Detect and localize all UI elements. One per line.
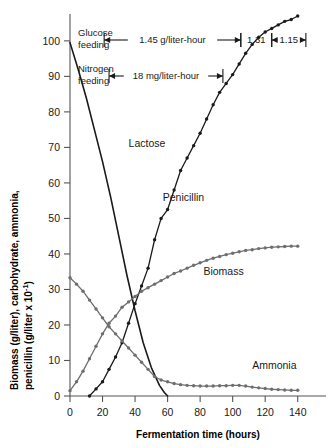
annotation-nitrogen-feeding: Nitrogenfeeding18 mg/liter-hour (78, 63, 223, 86)
data-point (179, 269, 182, 272)
nitrogen-feeding-label-line2: feeding (78, 75, 109, 86)
data-point (205, 384, 208, 387)
data-point (88, 394, 91, 397)
data-point (88, 357, 91, 360)
x-tick-label: 40 (129, 406, 141, 418)
y-axis-ticks: 0102030405060708090100 (42, 35, 70, 402)
x-tick-label: 80 (194, 406, 206, 418)
data-point (250, 248, 253, 251)
data-point (185, 384, 188, 387)
data-point (270, 388, 273, 391)
series-label-ammonia: Ammonia (252, 359, 297, 371)
annotations-layer: Glucosefeeding1.45 g/liter-hour1.311.15N… (78, 27, 306, 86)
y-tick-label: 30 (48, 283, 60, 295)
data-point (244, 249, 247, 252)
x-tick-label: 0 (67, 406, 73, 418)
data-point (218, 91, 221, 94)
data-point (127, 300, 130, 303)
data-point (211, 103, 214, 106)
data-point (81, 290, 84, 293)
data-point (237, 250, 240, 253)
data-point (192, 144, 195, 147)
data-point (283, 388, 286, 391)
data-point (290, 244, 293, 247)
y-tick-label: 70 (48, 141, 60, 153)
data-point (94, 387, 97, 390)
data-point (264, 30, 267, 33)
data-point (211, 257, 214, 260)
data-point (101, 332, 104, 335)
annotation-glucose-feeding: Glucosefeeding1.45 g/liter-hour1.311.15 (78, 27, 306, 50)
data-point (114, 332, 117, 335)
data-point (140, 361, 143, 364)
penicillin-fermentation-chart: Biomass (g/liter), carbohydrate, ammonia… (0, 0, 334, 448)
series-line (70, 43, 168, 396)
y-tick-label: 40 (48, 248, 60, 260)
data-point (205, 259, 208, 262)
data-point (179, 169, 182, 172)
x-tick-label: 60 (162, 406, 174, 418)
data-point (159, 217, 162, 220)
data-point (94, 345, 97, 348)
glucose-feeding-span-2-label: 1.31 (247, 34, 266, 45)
data-point (146, 266, 149, 269)
data-point (146, 286, 149, 289)
data-point (257, 386, 260, 389)
data-point (81, 369, 84, 372)
data-point (185, 156, 188, 159)
data-point (75, 380, 78, 383)
y-tick-label: 100 (42, 35, 60, 47)
x-tick-label: 120 (256, 406, 274, 418)
glucose-feeding-span-1-right-arrow (235, 37, 241, 43)
data-point (237, 384, 240, 387)
series-label-lactose: Lactose (129, 137, 166, 149)
data-point (114, 355, 117, 358)
data-point (296, 244, 299, 247)
data-point (101, 380, 104, 383)
data-point (277, 23, 280, 26)
data-point (179, 383, 182, 386)
data-point (231, 252, 234, 255)
data-point (159, 279, 162, 282)
y-tick-label: 50 (48, 212, 60, 224)
data-point (146, 368, 149, 371)
x-tick-label: 140 (289, 406, 307, 418)
data-point (127, 346, 130, 349)
data-point (296, 14, 299, 17)
nitrogen-feeding-span-n1-label: 18 mg/liter-hour (133, 70, 200, 81)
data-point (296, 389, 299, 392)
data-point (94, 307, 97, 310)
y-tick-label: 80 (48, 106, 60, 118)
data-point (244, 52, 247, 55)
y-axis-title-exponent: -1 (21, 284, 30, 291)
glucose-feeding-span-3-right-arrow (300, 37, 306, 43)
data-point (198, 261, 201, 264)
data-point (88, 298, 91, 301)
data-point (211, 384, 214, 387)
data-point (218, 255, 221, 258)
y-tick-label: 90 (48, 70, 60, 82)
data-point (120, 306, 123, 309)
y-tick-label: 20 (48, 319, 60, 331)
data-point (270, 27, 273, 30)
y-axis-title-line1: Biomass (g/liter), carbohydrate, ammonia… (9, 190, 20, 390)
data-point (244, 384, 247, 387)
data-point (264, 246, 267, 249)
data-point (250, 385, 253, 388)
data-point (166, 275, 169, 278)
data-point (75, 282, 78, 285)
data-point (237, 62, 240, 65)
data-point (133, 353, 136, 356)
y-tick-label: 10 (48, 354, 60, 366)
data-point (153, 375, 156, 378)
data-point (264, 387, 267, 390)
y-axis-title-line2: penicillin (g/liter x 10-1) (21, 281, 34, 390)
glucose-feeding-span-3-left-arrow (272, 37, 278, 43)
data-point (185, 266, 188, 269)
data-point (166, 208, 169, 211)
y-axis-title-line2-text: penicillin (g/liter x 10 (23, 291, 34, 390)
data-point (107, 325, 110, 328)
figure-container: Biomass (g/liter), carbohydrate, ammonia… (0, 0, 334, 448)
data-point (153, 282, 156, 285)
data-point (172, 272, 175, 275)
